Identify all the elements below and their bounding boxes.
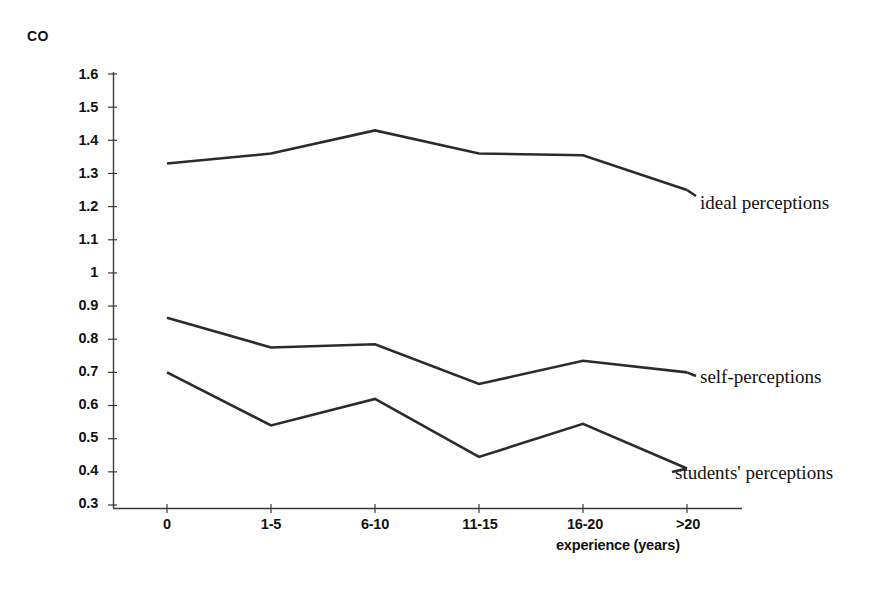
leader-line-self-perceptions [687, 372, 696, 376]
chart-series-lines [167, 130, 687, 468]
y-axis-ticks [108, 74, 117, 505]
chart-plot-area [0, 0, 891, 592]
leader-line-ideal-perceptions [687, 190, 696, 196]
chart-leader-lines [672, 190, 696, 472]
chart-axes [108, 72, 742, 513]
series-line-ideal-perceptions [167, 130, 687, 190]
series-line-students-perceptions [167, 372, 687, 468]
chart-figure: CO 1.6 1.5 1.4 1.3 1.2 1.1 1 0.9 0.8 0.7… [0, 0, 891, 592]
series-line-self-perceptions [167, 318, 687, 384]
leader-line-students-perceptions [672, 469, 687, 472]
